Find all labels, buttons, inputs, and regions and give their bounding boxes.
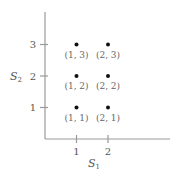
y-tick-label: 2 [30, 71, 36, 82]
x-axis-title: S1 [88, 157, 100, 171]
point-label: (1, 3) [64, 50, 88, 60]
sample-space-diagram: 12123 (1, 3)(2, 3)(1, 2)(2, 2)(1, 1)(2, … [0, 0, 180, 177]
data-point [75, 43, 79, 47]
point-label: (2, 1) [96, 113, 120, 123]
y-axis-title: S2 [10, 70, 22, 84]
point-label: (1, 1) [64, 113, 88, 123]
point-label: (2, 3) [96, 50, 120, 60]
data-point [75, 74, 79, 78]
data-point [106, 106, 110, 110]
data-point [75, 106, 79, 110]
data-point [106, 74, 110, 78]
x-tick-label: 1 [73, 146, 79, 157]
data-point [106, 43, 110, 47]
y-tick-label: 1 [30, 102, 36, 113]
point-label: (2, 2) [96, 81, 120, 91]
y-tick-label: 3 [30, 39, 36, 50]
point-label: (1, 2) [64, 81, 88, 91]
x-tick-label: 2 [105, 146, 111, 157]
